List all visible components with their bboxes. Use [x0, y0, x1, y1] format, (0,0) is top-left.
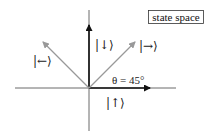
state-space-label: state space: [152, 11, 199, 23]
angle-annotation: θ = 45°: [112, 74, 144, 86]
ket-down-label: |↓⟩: [95, 38, 114, 52]
ket-left-label: |←⟩: [33, 54, 52, 68]
ket-up-label: |↑⟩: [106, 96, 125, 110]
ket-right-label: |→⟩: [139, 39, 158, 53]
state-space-diagram: |↑⟩ |↓⟩ |→⟩ |←⟩ θ = 45° state space: [0, 0, 216, 136]
